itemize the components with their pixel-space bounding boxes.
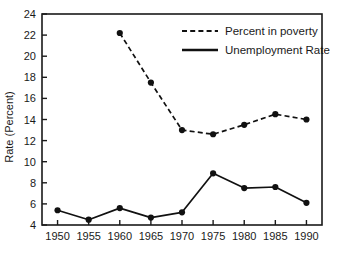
y-tick-label-24: 24	[24, 8, 36, 20]
data-point-1960	[117, 205, 123, 211]
data-point-1950	[54, 207, 60, 213]
y-tick-label-14: 14	[24, 114, 36, 126]
data-point-1965	[148, 79, 154, 85]
data-point-1975	[210, 170, 216, 176]
data-point-1985	[272, 111, 278, 117]
x-tick-label-1975: 1975	[201, 230, 225, 242]
y-tick-label-20: 20	[24, 50, 36, 62]
y-tick-label-4: 4	[30, 219, 36, 231]
x-tick-label-1990: 1990	[294, 230, 318, 242]
x-tick-label-1960: 1960	[108, 230, 132, 242]
chart-canvas: 4681012141618202224 19501955196019651970…	[0, 0, 342, 253]
y-tick-label-10: 10	[24, 156, 36, 168]
data-point-1990	[303, 116, 309, 122]
y-tick-label-12: 12	[24, 135, 36, 147]
x-tick-label-1970: 1970	[170, 230, 194, 242]
data-point-1980	[241, 122, 247, 128]
x-tick-label-1950: 1950	[45, 230, 69, 242]
data-point-1965	[148, 215, 154, 221]
data-point-1970	[179, 127, 185, 133]
poverty-unemployment-line-chart: 4681012141618202224 19501955196019651970…	[0, 0, 342, 253]
y-tick-label-6: 6	[30, 198, 36, 210]
data-point-1975	[210, 131, 216, 137]
legend-label: Unemployment Rate	[225, 44, 330, 56]
y-tick-label-16: 16	[24, 92, 36, 104]
x-tick-label-1965: 1965	[139, 230, 163, 242]
x-tick-label-1955: 1955	[76, 230, 100, 242]
data-point-1955	[86, 217, 92, 223]
y-tick-label-18: 18	[24, 71, 36, 83]
x-axis-tick-labels: 195019551960196519701975198019851990	[45, 230, 318, 242]
x-tick-label-1980: 1980	[232, 230, 256, 242]
data-point-1990	[303, 200, 309, 206]
data-point-1980	[241, 185, 247, 191]
data-point-1960	[117, 30, 123, 36]
y-tick-label-8: 8	[30, 177, 36, 189]
data-point-1985	[272, 184, 278, 190]
data-point-1970	[179, 209, 185, 215]
legend-label: Percent in poverty	[225, 25, 318, 37]
y-axis-title: Rate (Percent)	[3, 91, 15, 163]
x-tick-label-1985: 1985	[263, 230, 287, 242]
y-tick-label-22: 22	[24, 29, 36, 41]
